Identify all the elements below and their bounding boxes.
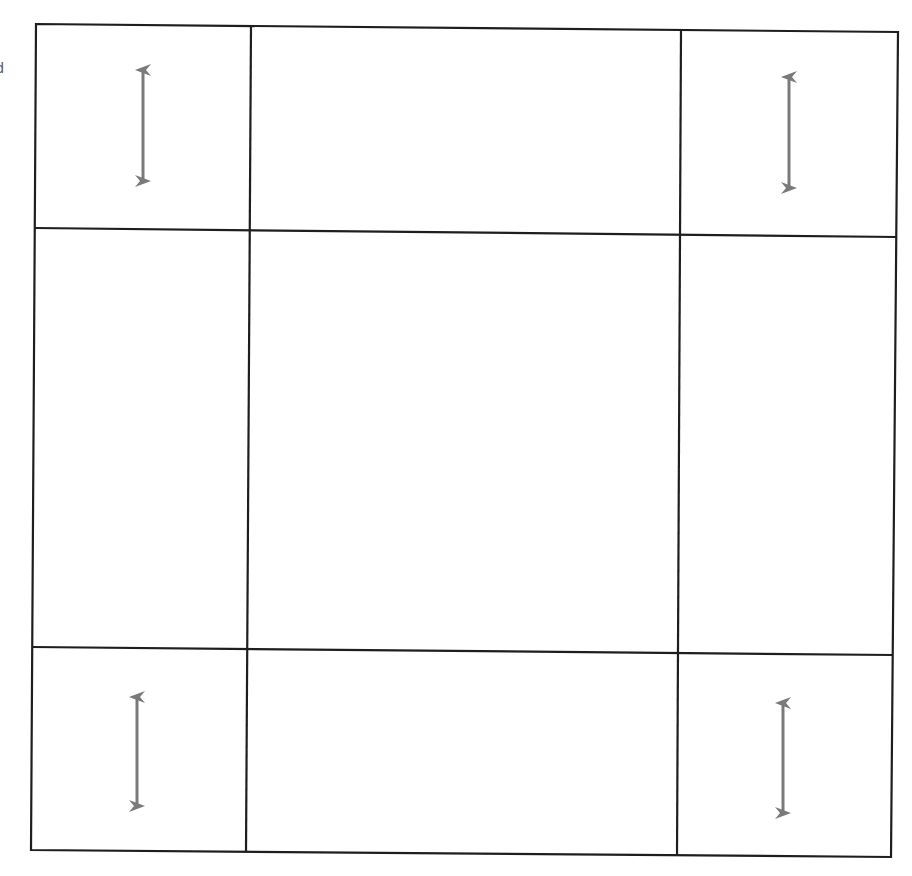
grid-diagram xyxy=(0,0,912,876)
vertical-divider-2 xyxy=(677,30,681,856)
vertical-divider-1 xyxy=(246,26,251,852)
horizontal-divider-1 xyxy=(35,228,897,237)
outer-border xyxy=(31,24,898,857)
grid-lines xyxy=(31,24,898,857)
horizontal-divider-2 xyxy=(32,647,893,655)
arrows xyxy=(137,70,789,813)
